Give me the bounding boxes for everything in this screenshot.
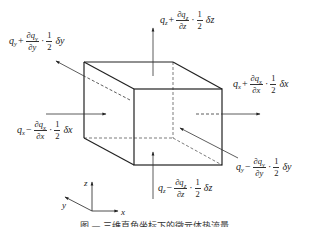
- z-axis-label: z: [84, 178, 88, 188]
- qy-minus-arrow: [180, 128, 238, 158]
- qy-plus-arrow: [56, 61, 84, 76]
- y-axis: [65, 197, 92, 211]
- qy-minus-label: qy− ∂qy∂y · 12 δy: [236, 157, 292, 177]
- flux-arrows: [46, 28, 260, 199]
- qz-plus-label: qz+ ∂qz∂z · 12 δz: [160, 10, 214, 30]
- y-axis-label: y: [62, 200, 66, 210]
- qy-plus-label: qy+ ∂qy∂y · 12 δy: [9, 31, 65, 51]
- coordinate-axes: [65, 182, 118, 211]
- qx-plus-label: qx+ ∂qx∂x · 12 δx: [233, 74, 289, 94]
- figure-caption: 图 — 三维直角坐标下的微元体热流量: [0, 219, 309, 227]
- x-axis-label: x: [121, 207, 125, 217]
- cube-visible-edges: [84, 62, 222, 165]
- qx-minus-label: qx− ∂qx∂x · 12 δx: [17, 120, 73, 140]
- qz-minus-label: qz− ∂qz∂z · 12 δz: [158, 178, 212, 198]
